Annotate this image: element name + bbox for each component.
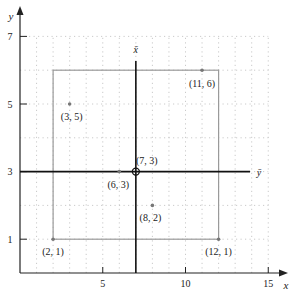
x-axis-arrow-icon <box>279 270 288 277</box>
data-point-label: (11, 6) <box>189 78 215 90</box>
y-tick-label: 5 <box>8 99 13 110</box>
data-point-label: (3, 5) <box>61 111 83 123</box>
data-point-label: (12, 1) <box>205 246 232 258</box>
y-axis-label: y <box>8 10 14 22</box>
y-axis-arrow-icon <box>17 6 24 15</box>
data-point-dot-icon <box>68 102 72 106</box>
data-point-dot-icon <box>200 68 204 72</box>
y-bar-label: ȳ <box>256 167 262 178</box>
coordinate-diagram: x y 51015 1357 x̄ ȳ (2, 1)(3, 5)(6, 3)(8… <box>0 0 292 292</box>
x-tick-label: 5 <box>100 278 105 289</box>
y-tick-label: 7 <box>8 31 13 42</box>
x-ticks: 51015 <box>100 267 273 289</box>
data-point-dot-icon <box>118 170 122 174</box>
y-tick-label: 1 <box>8 234 13 245</box>
x-axis-label: x <box>283 279 289 291</box>
data-point-label: (6, 3) <box>107 179 129 191</box>
x-bar-label: x̄ <box>133 44 139 55</box>
data-point-dot-icon <box>217 237 221 241</box>
y-tick-label: 3 <box>8 166 13 177</box>
data-point-label: (2, 1) <box>42 246 64 258</box>
centroid-label: (7, 3) <box>136 155 158 167</box>
data-point-dot-icon <box>151 204 155 208</box>
x-tick-label: 15 <box>263 278 273 289</box>
data-point-dot-icon <box>51 237 55 241</box>
y-ticks: 1357 <box>8 31 28 245</box>
data-point-label: (8, 2) <box>140 212 162 224</box>
x-tick-label: 10 <box>181 278 191 289</box>
